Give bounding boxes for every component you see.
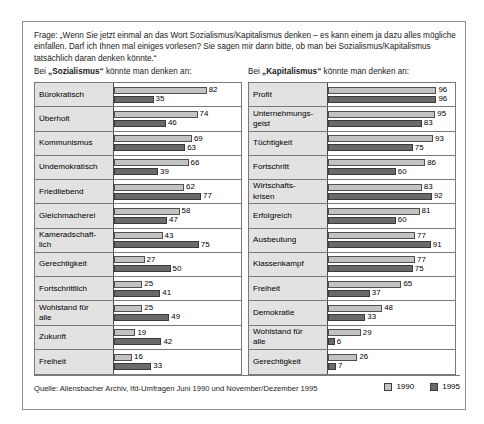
bar-rect-1990 xyxy=(328,135,433,142)
row-label-line: Friedliebend xyxy=(39,187,113,197)
row-label: Überholt xyxy=(35,107,114,130)
table-row: Erfolgreich8160 xyxy=(249,204,455,228)
caption-kapitalismus-prefix: Bei xyxy=(248,67,262,76)
row-label: Freiheit xyxy=(35,350,114,374)
bar-1990: 62 xyxy=(114,184,241,191)
bar-1995: 33 xyxy=(114,363,241,370)
row-bars: 5847 xyxy=(114,204,241,227)
legend-label-1990: 1990 xyxy=(396,381,414,392)
row-label: Wohlstand füralle xyxy=(35,301,114,324)
row-label: Profit xyxy=(249,83,328,106)
bar-rect-1990 xyxy=(114,111,198,118)
bar-value-1995: 75 xyxy=(415,144,424,152)
panel-kapitalismus: Profit9696Unternehmungs-geist9583Tüchtig… xyxy=(248,82,456,375)
bar-rect-1990 xyxy=(114,354,132,361)
panel-captions: Bei „Sozialismus“ könnte man denken an: … xyxy=(34,66,460,80)
bar-rect-1995 xyxy=(328,193,432,200)
bar-rect-1995 xyxy=(328,168,396,175)
row-label-line: Gerechtigkeit xyxy=(253,357,327,367)
bar-value-1990: 65 xyxy=(403,280,412,288)
bar-1995: 6 xyxy=(328,338,455,345)
bar-rect-1990 xyxy=(328,329,361,336)
row-label-line: Fortschrittlich xyxy=(39,284,113,294)
bar-rect-1990 xyxy=(114,256,145,263)
row-label-line: Kommunismus xyxy=(39,138,113,148)
bar-rect-1995 xyxy=(114,120,166,127)
bar-1990: 25 xyxy=(114,281,241,288)
bar-rect-1995 xyxy=(114,338,161,345)
table-row: Kommunismus6963 xyxy=(35,132,241,156)
bar-rect-1990 xyxy=(328,256,415,263)
row-bars: 7446 xyxy=(114,107,241,130)
bar-value-1995: 63 xyxy=(187,144,196,152)
table-row: Überholt7446 xyxy=(35,107,241,131)
bar-rect-1995 xyxy=(328,338,335,345)
row-bars: 2541 xyxy=(114,277,241,300)
row-label: Erfolgreich xyxy=(249,204,328,227)
bar-1990: 26 xyxy=(328,354,455,361)
bar-rect-1995 xyxy=(114,217,167,224)
row-bars: 6963 xyxy=(114,132,241,155)
bar-rect-1995 xyxy=(114,363,151,370)
footer-divider xyxy=(34,375,460,376)
legend-item-1990: 1990 xyxy=(384,381,414,392)
bar-1995: 83 xyxy=(328,120,455,127)
row-label-line: alle xyxy=(39,313,113,323)
bar-rect-1990 xyxy=(114,135,192,142)
row-label-line: Bürokratisch xyxy=(39,90,113,100)
legend-item-1995: 1995 xyxy=(430,381,460,392)
table-row: Profit9696 xyxy=(249,83,455,107)
bar-rect-1995 xyxy=(114,193,201,200)
bar-value-1990: 83 xyxy=(424,183,433,191)
table-row: Klassenkampf7775 xyxy=(249,253,455,277)
row-label: Klassenkampf xyxy=(249,253,328,276)
bar-1995: 39 xyxy=(114,168,241,175)
bar-rect-1995 xyxy=(114,290,160,297)
caption-sozialismus-prefix: Bei xyxy=(34,67,48,76)
bar-value-1995: 6 xyxy=(337,338,341,346)
table-row: Freiheit1633 xyxy=(35,350,241,374)
row-label-line: alle xyxy=(253,337,327,347)
row-label-line: Freiheit xyxy=(253,284,327,294)
row-bars: 296 xyxy=(328,326,455,349)
bar-rect-1990 xyxy=(114,232,163,239)
table-row: Wohlstand füralle2549 xyxy=(35,301,241,325)
table-row: Bürokratisch8235 xyxy=(35,83,241,107)
bar-value-1995: 75 xyxy=(415,265,424,273)
row-label-line: Wirtschafts- xyxy=(253,181,327,191)
bar-rect-1995 xyxy=(114,314,169,321)
bar-value-1990: 62 xyxy=(186,183,195,191)
chart-panels: Bürokratisch8235Überholt7446Kommunismus6… xyxy=(34,82,460,375)
row-label: Wohlstand füralle xyxy=(249,326,328,349)
row-label: Unternehmungs-geist xyxy=(249,107,328,130)
bar-1990: 58 xyxy=(114,208,241,215)
table-row: Fortschritt8660 xyxy=(249,156,455,180)
bar-1990: 43 xyxy=(114,232,241,239)
bar-1995: 91 xyxy=(328,241,455,248)
bar-rect-1995 xyxy=(328,241,431,248)
bar-value-1995: 49 xyxy=(171,313,180,321)
row-label-line: Überholt xyxy=(39,114,113,124)
chart-page: Frage: „Wenn Sie jetzt einmal an das Wor… xyxy=(0,0,484,424)
bar-1995: 49 xyxy=(114,314,241,321)
table-row: Tüchtigkeit9375 xyxy=(249,132,455,156)
bar-value-1990: 95 xyxy=(437,110,446,118)
bar-rect-1995 xyxy=(114,96,154,103)
bar-1995: 33 xyxy=(328,314,455,321)
row-bars: 6277 xyxy=(114,180,241,203)
row-label-line: geist xyxy=(253,119,327,129)
bar-value-1990: 58 xyxy=(182,207,191,215)
bar-1995: 41 xyxy=(114,290,241,297)
row-label-line: Klassenkampf xyxy=(253,259,327,269)
row-bars: 7775 xyxy=(328,253,455,276)
bar-value-1990: 81 xyxy=(422,207,431,215)
bar-1990: 27 xyxy=(114,256,241,263)
bar-1990: 77 xyxy=(328,256,455,263)
bar-1990: 74 xyxy=(114,111,241,118)
bar-value-1995: 37 xyxy=(372,289,381,297)
bar-1995: 35 xyxy=(114,96,241,103)
bar-value-1990: 82 xyxy=(209,86,218,94)
bar-1990: 86 xyxy=(328,159,455,166)
bar-1995: 60 xyxy=(328,168,455,175)
row-bars: 4833 xyxy=(328,301,455,324)
